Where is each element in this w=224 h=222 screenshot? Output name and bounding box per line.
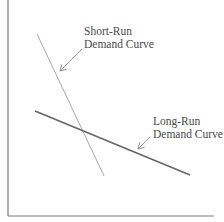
long-run-label: Long-Run Demand Curve <box>153 115 223 141</box>
long-run-pointer-arrow-icon <box>138 137 150 149</box>
short-run-label: Short-Run Demand Curve <box>84 25 154 51</box>
short-run-demand-curve <box>37 34 104 176</box>
short-run-label-line1: Short-Run <box>84 25 154 38</box>
long-run-label-line1: Long-Run <box>153 115 223 128</box>
short-run-pointer-arrow-icon <box>60 49 82 71</box>
demand-curve-diagram: Short-Run Demand Curve Long-Run Demand C… <box>0 0 224 222</box>
short-run-label-line2: Demand Curve <box>84 38 154 51</box>
long-run-label-line2: Demand Curve <box>153 128 223 141</box>
